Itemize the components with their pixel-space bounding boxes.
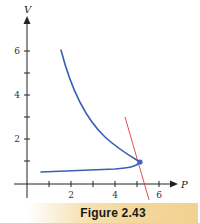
tangent-point	[137, 159, 142, 164]
axes	[14, 22, 172, 198]
y-axis-arrow-icon	[24, 16, 31, 24]
figure-plot: 2 4 6 2 4 6 P V	[0, 0, 200, 200]
caption-bar: Figure 2.43	[28, 203, 198, 223]
y-tick-label-2: 2	[14, 134, 20, 144]
y-tick-label-6: 6	[14, 46, 20, 56]
x-tick-label-6: 6	[156, 190, 162, 200]
y-tick-label-4: 4	[14, 90, 20, 100]
x-tick-label-4: 4	[112, 190, 118, 200]
tangent-line	[125, 117, 152, 200]
y-axis-label: V	[24, 4, 33, 15]
x-axis-label: P	[180, 179, 188, 190]
figure-caption: Figure 2.43	[80, 206, 146, 220]
curve-series	[41, 50, 140, 172]
x-tick-label-2: 2	[68, 190, 74, 200]
x-axis-arrow-icon	[170, 181, 178, 188]
